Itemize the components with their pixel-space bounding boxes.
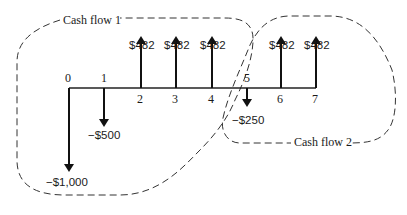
period-label-2: 2 bbox=[137, 92, 143, 106]
amount-label-5: −$250 bbox=[232, 114, 264, 126]
period-label-7: 7 bbox=[312, 92, 318, 106]
amount-label-7: $482 bbox=[304, 39, 330, 51]
period-label-5: 5 bbox=[244, 71, 250, 85]
period-label-4: 4 bbox=[208, 92, 214, 106]
period-label-3: 3 bbox=[172, 92, 178, 106]
period-label-6: 6 bbox=[277, 92, 283, 106]
period-label-1: 1 bbox=[101, 71, 107, 85]
amount-label-1: −$500 bbox=[88, 129, 120, 141]
amount-label-3: $482 bbox=[164, 39, 190, 51]
amount-label-4: $482 bbox=[200, 39, 226, 51]
cash-flow-2-label: Cash flow 2 bbox=[294, 135, 352, 149]
period-label-0: 0 bbox=[65, 71, 71, 85]
cash-flow-1-label: Cash flow 1 bbox=[63, 13, 121, 27]
amount-label-0: −$1,000 bbox=[46, 176, 88, 188]
cash-flow-diagram: Cash flow 1 Cash flow 2 0 −$1,000 1 −$50… bbox=[0, 0, 407, 215]
amount-label-6: $482 bbox=[269, 39, 295, 51]
amount-label-2: $482 bbox=[129, 39, 155, 51]
